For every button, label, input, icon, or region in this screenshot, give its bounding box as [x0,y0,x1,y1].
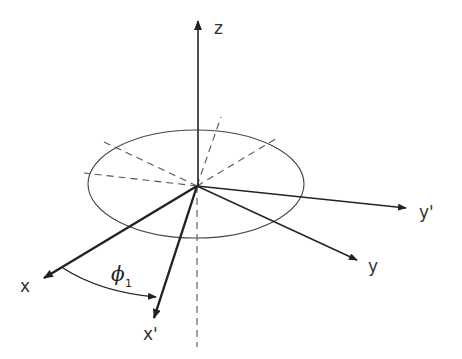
y-axis [197,186,357,260]
y-axis-label: y [368,256,378,276]
phi-subscript: 1 [125,277,132,290]
angle-arc [63,268,156,297]
x-prime-axis-label: x' [143,324,158,344]
x-axis-label: x [20,276,30,296]
z-axis-label: z [214,18,223,38]
x-prime-axis [154,186,197,318]
coordinate-rotation-diagram: z y' y x x' ϕ 1 [0,0,462,359]
y-prime-axis-label: y' [419,202,434,222]
y-prime-axis [197,186,406,208]
xy-plane-ellipse [88,130,304,238]
phi-symbol: ϕ [111,262,125,286]
